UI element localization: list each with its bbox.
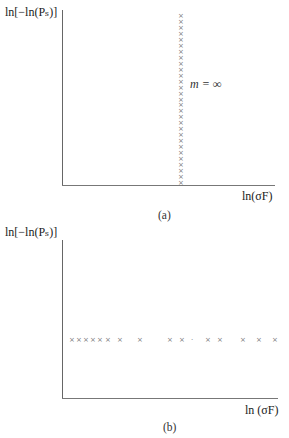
panel-b-x-axis-label: ln (σF) [245, 403, 278, 418]
panel-a-x-axis [62, 185, 275, 186]
data-point-marker: × [239, 337, 247, 344]
panel-b-y-axis [62, 240, 63, 399]
panel-a-annotation: m = ∞ [190, 77, 221, 92]
data-point-marker: · [188, 337, 196, 344]
data-point-marker: × [255, 337, 263, 344]
data-point-marker: × [178, 337, 186, 344]
data-point-marker: × [116, 337, 124, 344]
panel-a-y-axis-label: ln[−ln(Pₛ)] [5, 5, 57, 20]
panel-b-caption: (b) [163, 421, 176, 433]
data-point-marker: × [96, 337, 104, 344]
panel-a-x-axis-label: ln(σF) [242, 189, 272, 204]
data-point-marker: × [177, 180, 185, 187]
data-point-marker: × [104, 337, 112, 344]
data-point-marker: × [271, 337, 279, 344]
panel-a-y-axis [62, 10, 63, 186]
panel-b-x-axis [62, 398, 278, 399]
data-point-marker: × [136, 337, 144, 344]
panel-b-y-axis-label: ln[−ln(Pₛ)] [5, 225, 57, 240]
data-point-marker: × [166, 337, 174, 344]
data-point-marker: × [216, 337, 224, 344]
data-point-marker: × [204, 337, 212, 344]
panel-a-caption: (a) [158, 209, 171, 221]
